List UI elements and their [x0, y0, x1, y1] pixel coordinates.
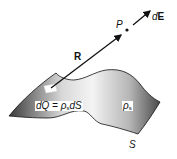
- vector-r-label: R: [74, 52, 81, 62]
- surface-density-label: ρs: [122, 101, 133, 111]
- surface-rho-subscript: s: [129, 105, 132, 111]
- de-vector: E: [158, 11, 165, 22]
- charge-element-equation: dQ = ρsdS: [35, 101, 83, 111]
- surface-s-label: S: [129, 140, 136, 150]
- diagram-canvas: P dE R dQ = ρsdS ρs S: [0, 0, 177, 159]
- point-p-label: P: [116, 20, 123, 30]
- surface-s: [9, 70, 160, 134]
- point-p-dot: [125, 28, 128, 31]
- diagram-graphics: [0, 0, 177, 159]
- ds-text: dS: [69, 100, 81, 111]
- de-label: dE: [152, 12, 164, 22]
- dq-text: dQ =: [36, 100, 61, 111]
- de-vector-arrow: [133, 11, 150, 25]
